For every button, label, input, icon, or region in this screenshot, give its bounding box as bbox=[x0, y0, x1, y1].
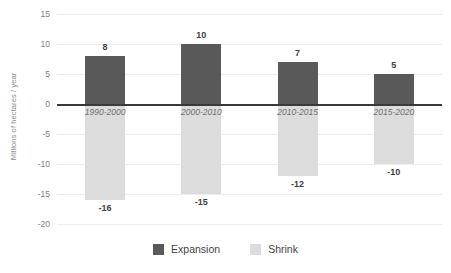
y-axis-tick-label: -5 bbox=[42, 129, 50, 139]
chart-legend: Expansion Shrink bbox=[0, 243, 451, 255]
bar-chart: Millions of hectares / year 151050-5-10-… bbox=[0, 0, 451, 273]
legend-item-shrink[interactable]: Shrink bbox=[250, 243, 298, 255]
bar-value-label-shrink: -15 bbox=[166, 197, 236, 207]
bar-value-label-shrink: -10 bbox=[359, 167, 429, 177]
x-axis-category-label: 1990-2000 bbox=[60, 107, 150, 117]
y-axis-tick-label: 0 bbox=[45, 99, 50, 109]
legend-item-expansion[interactable]: Expansion bbox=[153, 243, 220, 255]
y-axis-title-text: Millions of hectares / year bbox=[10, 72, 19, 160]
bar-value-label-shrink: -16 bbox=[70, 203, 140, 213]
legend-swatch-expansion-icon bbox=[153, 244, 164, 255]
bar-expansion[interactable] bbox=[374, 74, 414, 104]
bar-expansion[interactable] bbox=[278, 62, 318, 104]
y-axis-tick-label: 15 bbox=[41, 9, 50, 19]
plot-area: 151050-5-10-15-208-161990-200010-152000-… bbox=[57, 14, 442, 224]
bar-expansion[interactable] bbox=[85, 56, 125, 104]
x-axis-category-label: 2000-2010 bbox=[156, 107, 246, 117]
y-axis-tick-label: -20 bbox=[38, 219, 50, 229]
legend-swatch-shrink-icon bbox=[250, 244, 261, 255]
bar-expansion[interactable] bbox=[181, 44, 221, 104]
gridline bbox=[57, 14, 442, 15]
y-axis-tick-label: 10 bbox=[41, 39, 50, 49]
bar-shrink[interactable] bbox=[181, 104, 221, 194]
y-axis-title: Millions of hectares / year bbox=[2, 0, 26, 232]
gridline bbox=[57, 224, 442, 225]
bar-value-label-expansion: 7 bbox=[263, 48, 333, 58]
bar-value-label-expansion: 10 bbox=[166, 30, 236, 40]
zero-axis-line bbox=[57, 104, 442, 106]
y-axis-tick-label: 5 bbox=[45, 69, 50, 79]
bar-value-label-expansion: 5 bbox=[359, 60, 429, 70]
bar-value-label-expansion: 8 bbox=[70, 42, 140, 52]
bar-value-label-shrink: -12 bbox=[263, 179, 333, 189]
bar-shrink[interactable] bbox=[85, 104, 125, 200]
legend-label-expansion: Expansion bbox=[171, 243, 220, 255]
y-axis-tick-label: -10 bbox=[38, 159, 50, 169]
legend-label-shrink: Shrink bbox=[268, 243, 298, 255]
y-axis-tick-label: -15 bbox=[38, 189, 50, 199]
x-axis-category-label: 2015-2020 bbox=[349, 107, 439, 117]
x-axis-category-label: 2010-2015 bbox=[253, 107, 343, 117]
